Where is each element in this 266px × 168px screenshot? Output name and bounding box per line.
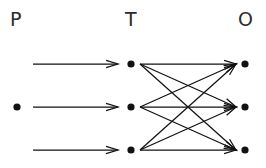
node-o3 — [241, 146, 248, 153]
node-o1 — [241, 60, 248, 67]
node-p2 — [13, 103, 20, 110]
node-t3 — [127, 146, 134, 153]
node-t1 — [127, 60, 134, 67]
node-o2 — [241, 103, 248, 110]
edge-group-p-to-t — [33, 60, 118, 153]
node-t2 — [127, 103, 134, 110]
edge-group-t-to-o — [140, 60, 236, 153]
diagram-canvas: P T O — [0, 0, 266, 168]
graph-svg — [0, 0, 266, 168]
